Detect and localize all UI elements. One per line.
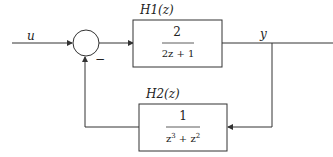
input-label: u: [27, 29, 35, 43]
h2-label: H2(z): [145, 87, 180, 101]
output-label: y: [259, 27, 267, 41]
h1-denominator: 2z + 1: [162, 48, 195, 59]
feedback-return-line: [85, 57, 139, 127]
feedback-branch-line: [228, 43, 272, 127]
h2-denominator: z3 + z2: [166, 132, 200, 144]
h1-label: H1(z): [139, 3, 174, 17]
h2-block: H2(z) 1 z3 + z2: [139, 87, 227, 151]
h2-numerator: 1: [179, 109, 187, 123]
h1-numerator: 2: [173, 25, 181, 39]
h1-block: H1(z) 2 2z + 1: [133, 3, 222, 67]
block-diagram: u − H1(z) 2 2z + 1 y H2(z) 1 z3 + z2: [0, 0, 333, 157]
feedback-sign: −: [95, 52, 105, 66]
